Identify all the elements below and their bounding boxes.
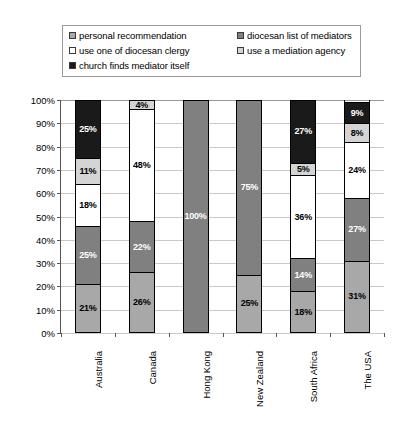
stacked-bar[interactable]: 26%22%48%4% (129, 100, 155, 333)
bar-segment-value-label: 18% (295, 308, 312, 317)
stacked-bar[interactable]: 18%14%36%5%27% (290, 100, 316, 333)
x-tick-mark (330, 333, 331, 337)
y-tick-label: 30% (36, 258, 55, 269)
bar-segment[interactable]: 27% (291, 100, 315, 163)
legend-entry-diocesan-clergy: use one of diocesan clergy (69, 45, 237, 56)
bar-group[interactable]: 21%25%18%11%25% (61, 100, 115, 333)
bar-segment-value-label: 25% (79, 251, 96, 260)
bar-segment[interactable]: 100% (184, 100, 208, 333)
legend-row: church finds mediator itself (69, 60, 354, 75)
y-tick-label: 40% (36, 234, 55, 245)
legend-entry-church-finds-mediator: church finds mediator itself (69, 60, 237, 71)
bar-segment-value-label: 5% (297, 165, 310, 174)
bar-segment[interactable]: 8% (345, 123, 369, 142)
legend-row: personal recommendation diocesan list of… (69, 30, 354, 45)
bar-segment-value-label: 8% (351, 129, 364, 138)
y-tick-label: 0% (41, 328, 55, 339)
y-tick-label: 50% (36, 211, 55, 222)
x-tick-mark (115, 333, 116, 337)
bar-segment[interactable]: 18% (291, 291, 315, 333)
bar-segment[interactable]: 75% (237, 100, 261, 275)
legend-swatch-church-finds-mediator (69, 62, 76, 69)
bar-group[interactable]: 100% (169, 100, 223, 333)
stacked-bars: 21%25%18%11%25%26%22%48%4%100%25%75%18%1… (61, 100, 384, 333)
bar-segment[interactable]: 5% (291, 163, 315, 175)
bar-segment[interactable]: 26% (130, 272, 154, 333)
bar-segment-value-label: 27% (348, 225, 365, 234)
y-tick-label: 60% (36, 188, 55, 199)
legend-swatch-mediation-agency (237, 47, 244, 54)
bar-segment-value-label: 27% (295, 127, 312, 136)
bar-segment-value-label: 24% (348, 166, 365, 175)
stacked-bar[interactable]: 25%75% (236, 100, 262, 333)
legend-entry-mediation-agency: use a mediation agency (237, 45, 345, 56)
bar-segment-value-label: 9% (351, 109, 364, 118)
y-tick-label: 100% (31, 95, 55, 106)
legend-label-diocesan-clergy: use one of diocesan clergy (79, 45, 189, 56)
legend-entry-diocesan-list: diocesan list of mediators (237, 30, 352, 41)
bar-segment-value-label: 18% (79, 201, 96, 210)
bar-group[interactable]: 25%75% (223, 100, 277, 333)
bar-segment-value-label: 21% (79, 304, 96, 313)
legend-swatch-diocesan-list (237, 32, 244, 39)
bar-segment[interactable]: 24% (345, 142, 369, 198)
x-tick-mark (223, 333, 224, 337)
legend-label-diocesan-list: diocesan list of mediators (247, 30, 352, 41)
y-tick-label: 20% (36, 281, 55, 292)
x-tick-mark (61, 333, 62, 337)
bar-segment[interactable]: 48% (130, 109, 154, 221)
x-axis-category-label: The USA (362, 351, 373, 426)
bar-group[interactable]: 18%14%36%5%27% (276, 100, 330, 333)
x-tick-mark (169, 333, 170, 337)
bar-segment[interactable]: 21% (76, 284, 100, 333)
legend-label-church-finds-mediator: church finds mediator itself (79, 60, 189, 71)
bar-group[interactable]: 26%22%48%4% (115, 100, 169, 333)
bar-segment[interactable]: 25% (76, 226, 100, 284)
bar-segment-value-label: 75% (241, 183, 258, 192)
legend-row: use one of diocesan clergy use a mediati… (69, 45, 354, 60)
bar-group[interactable]: 31%27%24%8%9% (330, 100, 384, 333)
bar-segment-value-label: 4% (135, 101, 148, 110)
bar-segment-value-label: 48% (133, 161, 150, 170)
bar-segment[interactable]: 4% (130, 100, 154, 109)
bar-segment-value-label: 31% (348, 292, 365, 301)
bar-segment[interactable]: 25% (237, 275, 261, 333)
bar-segment-value-label: 26% (133, 298, 150, 307)
legend-label-personal-recommendation: personal recommendation (79, 30, 187, 41)
legend-swatch-diocesan-clergy (69, 47, 76, 54)
legend-swatch-personal-recommendation (69, 32, 76, 39)
bar-segment[interactable]: 9% (345, 102, 369, 123)
stacked-bar[interactable]: 21%25%18%11%25% (75, 100, 101, 333)
bar-segment-value-label: 11% (79, 167, 96, 176)
bar-segment[interactable]: 11% (76, 158, 100, 184)
bar-segment[interactable]: 25% (76, 100, 100, 158)
stacked-bar[interactable]: 31%27%24%8%9% (344, 100, 370, 333)
stacked-bar[interactable]: 100% (183, 100, 209, 333)
bar-segment[interactable]: 22% (130, 221, 154, 272)
bar-segment-value-label: 25% (79, 125, 96, 134)
x-tick-mark (384, 333, 385, 337)
bar-segment-value-label: 36% (295, 213, 312, 222)
x-axis-category-label: New Zealand (254, 351, 265, 426)
bar-segment[interactable]: 27% (345, 198, 369, 261)
y-tick-label: 70% (36, 164, 55, 175)
bar-segment-value-label: 100% (184, 212, 206, 221)
bar-segment-value-label: 14% (295, 271, 312, 280)
x-axis-category-label: Hong Kong (201, 351, 212, 426)
legend-label-mediation-agency: use a mediation agency (247, 45, 345, 56)
bar-segment[interactable]: 36% (291, 175, 315, 259)
bar-segment[interactable]: 18% (76, 184, 100, 226)
bar-segment[interactable]: 14% (291, 258, 315, 291)
x-axis-category-label: Australia (93, 351, 104, 426)
bar-segment-value-label: 25% (241, 299, 258, 308)
chart-plot-area: 0%10%20%30%40%50%60%70%80%90%100% 21%25%… (60, 100, 384, 334)
x-axis-category-label: Canada (147, 351, 158, 426)
bar-segment[interactable]: 31% (345, 261, 369, 333)
x-axis-category-label: South Africa (308, 351, 319, 426)
chart-legend: personal recommendation diocesan list of… (62, 25, 361, 77)
bar-segment-value-label: 22% (133, 243, 150, 252)
y-tick-label: 80% (36, 141, 55, 152)
y-tick-label: 10% (36, 304, 55, 315)
y-tick-label: 90% (36, 118, 55, 129)
x-tick-mark (276, 333, 277, 337)
